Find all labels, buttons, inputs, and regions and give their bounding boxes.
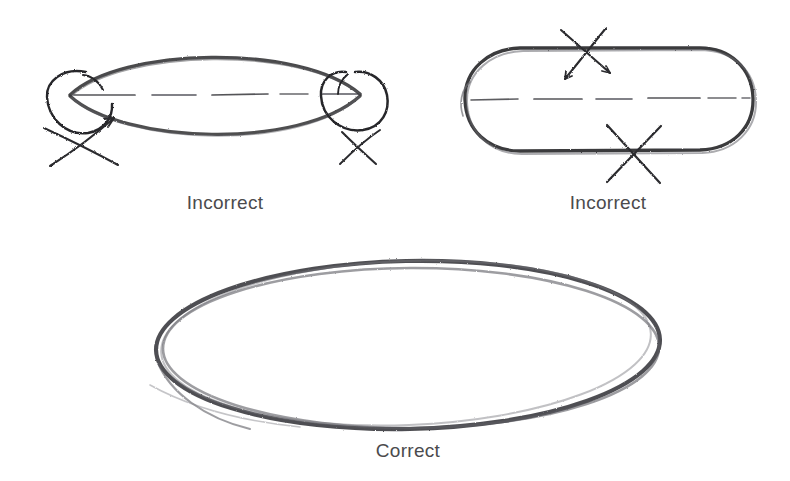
caption-incorrect-left: Incorrect [187, 192, 264, 214]
x-mark-right-pointed [340, 130, 380, 164]
x-mark-stadium-top [561, 28, 610, 79]
correct-ellipse-outline [150, 252, 662, 435]
pointed-lens-outline [70, 57, 361, 135]
figure-incorrect-pointed [44, 57, 388, 166]
stadium-centerline [471, 98, 750, 100]
stadium-outline [461, 48, 756, 154]
caption-correct: Correct [376, 440, 440, 462]
figure-correct-ellipse [150, 252, 662, 435]
caption-incorrect-right: Incorrect [570, 192, 647, 214]
pencil-sketch-illustration [0, 0, 790, 481]
sketch-page: Incorrect Incorrect Correct [0, 0, 790, 481]
pointed-lens-centerline [74, 94, 358, 95]
x-mark-left-pointed [44, 118, 118, 166]
figure-incorrect-stadium [461, 28, 756, 183]
